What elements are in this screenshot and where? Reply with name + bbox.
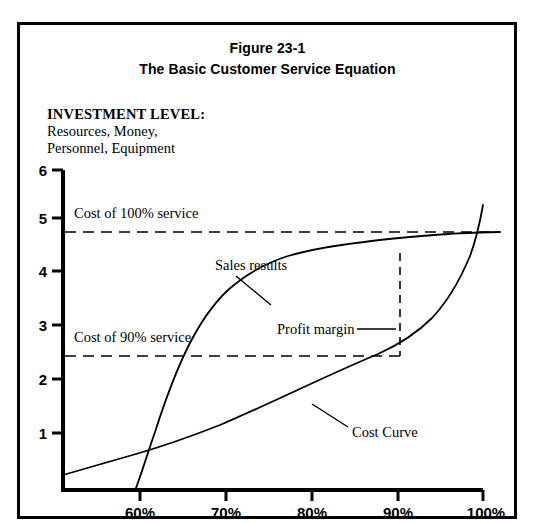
x-tick-label-60: 60%: [125, 504, 155, 521]
y-tick-label-6: 6: [39, 162, 47, 179]
figure-container: Figure 23-1 The Basic Customer Service E…: [0, 0, 535, 523]
annotation-sales-results: Sales results: [215, 257, 287, 273]
annotation-cost-of-90-service: Cost of 90% service: [74, 329, 191, 345]
y-tick-label-1: 1: [39, 425, 47, 442]
x-tick-label-90: 90%: [383, 504, 413, 521]
sales-results-leader-line: [236, 276, 271, 305]
x-tick-label-70: 70%: [211, 504, 241, 521]
y-tick-label-5: 5: [39, 210, 47, 227]
annotation-profit-margin: Profit margin: [277, 321, 355, 337]
x-tick-label-80: 80%: [297, 504, 327, 521]
annotation-cost-of-100-service: Cost of 100% service: [74, 205, 198, 221]
sales-results-curve: [136, 232, 500, 488]
x-tick-label-100: 100%: [467, 504, 505, 521]
y-tick-label-2: 2: [39, 371, 47, 388]
y-tick-label-4: 4: [39, 263, 48, 280]
cost-curve-leader-line: [312, 404, 348, 427]
y-tick-label-3: 3: [39, 317, 47, 334]
annotation-cost-curve: Cost Curve: [352, 424, 418, 440]
chart-plot-area: 6 5 4 3 2 1 60% 70% 80% 90% 100% C: [0, 0, 535, 523]
